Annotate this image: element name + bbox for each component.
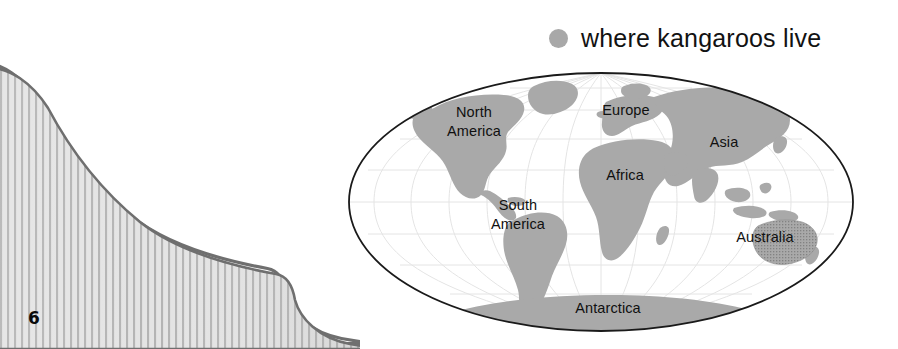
scallop-white-gap	[0, 68, 360, 349]
label-australia: Australia	[736, 229, 794, 245]
scallop-inner-rule	[0, 68, 360, 349]
page-number: 6	[28, 310, 40, 327]
label-africa: Africa	[606, 167, 644, 183]
label-antarctica: Antarctica	[575, 300, 641, 316]
legend: where kangaroos live	[549, 26, 821, 51]
legend-swatch-circle-icon	[549, 29, 568, 48]
world-map-svg: North America Europe Asia Africa South A…	[338, 62, 864, 342]
label-north-america-line1: North	[456, 104, 492, 120]
label-south-america-line1: South	[499, 197, 537, 213]
scallop-striped-body	[0, 68, 360, 349]
book-page: 6 where kangaroos live	[0, 0, 898, 349]
label-north-america-line2: America	[447, 123, 502, 139]
scallop-outer-rule	[0, 62, 360, 343]
legend-label: where kangaroos live	[581, 26, 821, 51]
world-map: North America Europe Asia Africa South A…	[338, 62, 864, 342]
label-europe: Europe	[602, 102, 649, 118]
scallop-body-shading	[0, 68, 360, 349]
label-south-america-line2: America	[491, 216, 546, 232]
decorative-scalloped-panel	[0, 0, 360, 349]
label-asia: Asia	[710, 134, 739, 150]
